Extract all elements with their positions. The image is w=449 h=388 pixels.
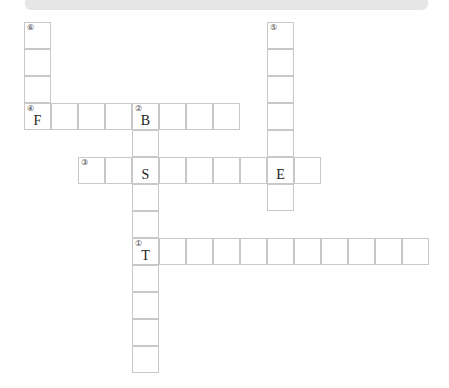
crossword-cell[interactable] xyxy=(132,211,159,238)
clue-number: ① xyxy=(135,239,142,248)
crossword-cell[interactable] xyxy=(213,157,240,184)
crossword-cell[interactable] xyxy=(294,238,321,265)
clue-number: ④ xyxy=(27,104,34,113)
crossword-cell[interactable] xyxy=(132,265,159,292)
cell-letter: T xyxy=(133,248,158,264)
crossword-cell[interactable] xyxy=(240,157,267,184)
crossword-cell[interactable] xyxy=(132,130,159,157)
crossword-cell[interactable] xyxy=(186,238,213,265)
cell-letter: B xyxy=(133,113,158,129)
crossword-cell[interactable] xyxy=(186,103,213,130)
crossword-cell[interactable] xyxy=(51,103,78,130)
clue-number: ② xyxy=(135,104,142,113)
crossword-cell[interactable] xyxy=(348,238,375,265)
crossword-cell[interactable]: S xyxy=(132,157,159,184)
crossword-cell[interactable] xyxy=(267,184,294,211)
crossword-cell[interactable] xyxy=(375,238,402,265)
crossword-cell[interactable] xyxy=(159,157,186,184)
crossword-cell[interactable] xyxy=(132,292,159,319)
crossword-cell[interactable] xyxy=(159,103,186,130)
crossword-cell[interactable] xyxy=(159,238,186,265)
crossword-cell[interactable] xyxy=(240,238,267,265)
header-bar xyxy=(25,0,428,10)
clue-number: ⑤ xyxy=(270,23,277,32)
crossword-cell[interactable] xyxy=(267,130,294,157)
crossword-cell[interactable] xyxy=(24,76,51,103)
cell-letter: F xyxy=(25,113,50,129)
crossword-cell[interactable]: ⑤ xyxy=(267,22,294,49)
crossword-cell[interactable] xyxy=(132,319,159,346)
crossword-cell[interactable] xyxy=(402,238,429,265)
cell-letter: E xyxy=(268,167,293,183)
crossword-cell[interactable] xyxy=(186,157,213,184)
crossword-cell[interactable]: E xyxy=(267,157,294,184)
crossword-cell[interactable] xyxy=(294,157,321,184)
crossword-cell[interactable]: ①T xyxy=(132,238,159,265)
crossword-cell[interactable] xyxy=(78,103,105,130)
crossword-cell[interactable] xyxy=(132,184,159,211)
crossword-cell[interactable] xyxy=(321,238,348,265)
crossword-cell[interactable] xyxy=(105,103,132,130)
crossword-cell[interactable]: ⑥ xyxy=(24,22,51,49)
crossword-cell[interactable] xyxy=(267,76,294,103)
clue-number: ⑥ xyxy=(27,23,34,32)
crossword-cell[interactable] xyxy=(105,157,132,184)
crossword-cell[interactable] xyxy=(24,49,51,76)
cell-letter: S xyxy=(133,167,158,183)
crossword-cell[interactable]: ②B xyxy=(132,103,159,130)
crossword-cell[interactable] xyxy=(213,238,240,265)
crossword-cell[interactable] xyxy=(267,49,294,76)
crossword-cell[interactable]: ④F xyxy=(24,103,51,130)
crossword-cell[interactable]: ③ xyxy=(78,157,105,184)
crossword-cell[interactable] xyxy=(267,103,294,130)
crossword-cell[interactable] xyxy=(132,346,159,373)
clue-number: ③ xyxy=(81,158,88,167)
crossword-cell[interactable] xyxy=(213,103,240,130)
crossword-cell[interactable] xyxy=(267,238,294,265)
